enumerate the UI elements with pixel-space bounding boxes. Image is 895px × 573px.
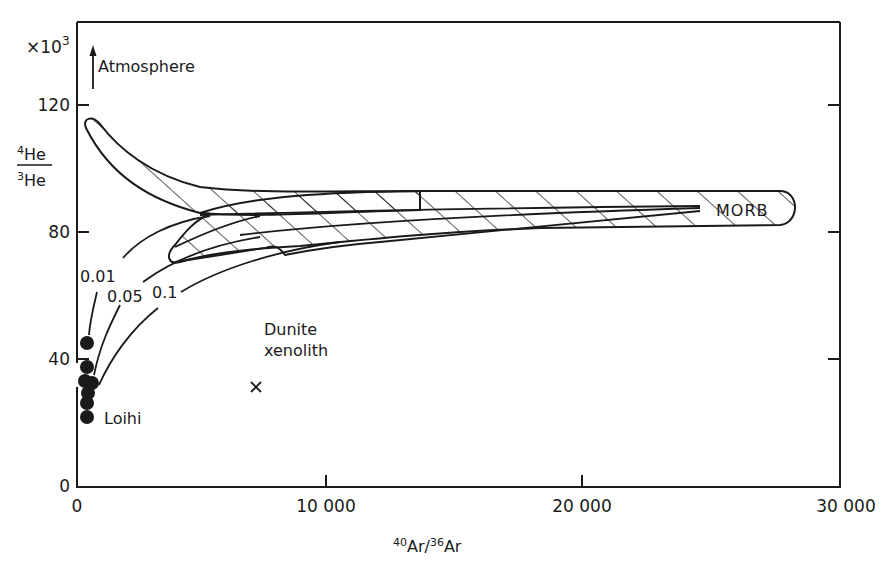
- dunite-label-line2: xenolith: [264, 341, 328, 360]
- x-tick-20000: 20 000: [552, 496, 611, 516]
- dunite-xenolith-marker: [251, 382, 261, 392]
- morb-label: MORB: [716, 201, 769, 220]
- x-tick-10000: 10 000: [296, 496, 355, 516]
- atmosphere-label: Atmosphere: [98, 57, 195, 76]
- svg-text:3He: 3He: [17, 170, 46, 190]
- y-tick-80: 80: [48, 222, 70, 242]
- morb-field: [169, 191, 795, 263]
- chart-canvas: 120 80 40 0 0 10 000 20 000 30 000 ×103 …: [0, 0, 895, 573]
- y-tick-120: 120: [38, 95, 70, 115]
- x-tick-0: 0: [72, 496, 83, 516]
- axis-ticks: [77, 105, 840, 487]
- loihi-points: [78, 336, 99, 424]
- atmosphere-arrow-icon: [90, 45, 97, 89]
- y-axis-label: 4He 3He: [17, 144, 52, 190]
- y-tick-40: 40: [48, 349, 70, 369]
- x-tick-30000: 30 000: [816, 496, 875, 516]
- dunite-label-line1: Dunite: [264, 320, 317, 339]
- curve-label-0.05: 0.05: [107, 287, 143, 306]
- curve-label-0.1: 0.1: [152, 283, 177, 302]
- x-axis-label: 40Ar/36Ar: [393, 536, 462, 556]
- curve-label-0.01: 0.01: [80, 267, 116, 286]
- y-tick-0: 0: [59, 476, 70, 496]
- svg-text:4He: 4He: [17, 144, 46, 164]
- loihi-label: Loihi: [104, 409, 141, 428]
- y-multiplier: ×103: [26, 34, 70, 57]
